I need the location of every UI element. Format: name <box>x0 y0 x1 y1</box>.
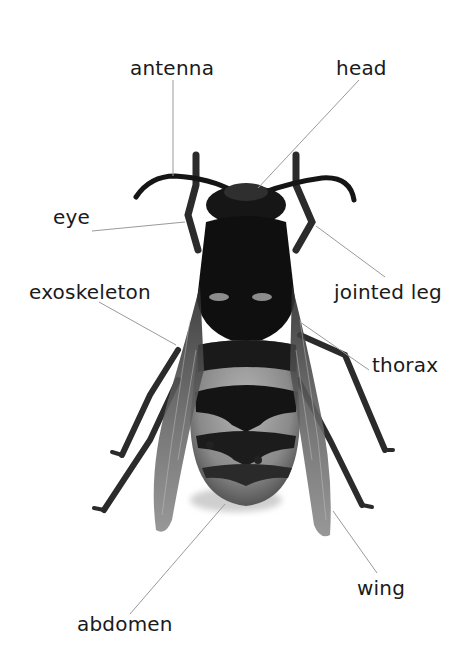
wasp-anatomy-diagram: antenna head eye exoskeleton jointed leg… <box>0 0 475 668</box>
label-wing: wing <box>357 578 405 598</box>
label-jointed-leg: jointed leg <box>334 282 442 302</box>
leader-line-eye <box>92 222 185 231</box>
label-abdomen: abdomen <box>77 614 173 634</box>
label-head: head <box>336 58 387 78</box>
thorax <box>197 216 295 345</box>
wasp-illustration <box>0 0 475 668</box>
leader-line-wing <box>333 511 377 573</box>
label-antenna: antenna <box>130 58 214 78</box>
leader-line-thorax <box>300 322 369 370</box>
head-hair <box>224 183 268 201</box>
leader-line-exoskeleton <box>99 302 176 345</box>
abdomen-dot <box>254 456 262 464</box>
abdomen-dot <box>206 441 214 449</box>
thorax-spot-right <box>252 293 272 301</box>
leader-line-abdomen <box>130 504 225 614</box>
label-eye: eye <box>53 207 90 227</box>
leader-line-head <box>258 80 359 188</box>
thorax-spot-left <box>209 293 229 301</box>
leader-line-jointed-leg <box>316 226 385 277</box>
label-exoskeleton: exoskeleton <box>29 282 151 302</box>
label-thorax: thorax <box>372 355 438 375</box>
